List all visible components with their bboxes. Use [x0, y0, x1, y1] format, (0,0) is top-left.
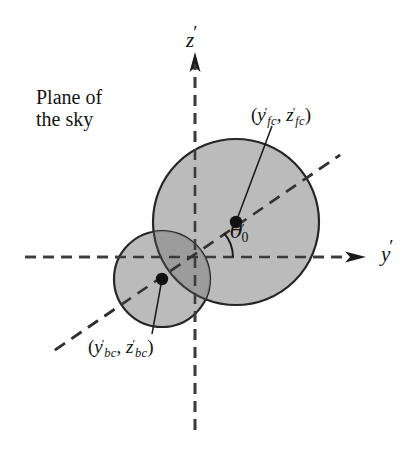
fc-close-paren: ) — [305, 104, 311, 125]
back-component-coordinates-label: (y′bc, z′bc) — [88, 336, 154, 360]
theta-symbol: θ — [230, 219, 243, 243]
plane-of-sky-line1: Plane of — [36, 86, 102, 108]
fc-y-subscript: fc — [267, 114, 276, 128]
bc-z-subscript: bc — [135, 346, 147, 360]
binary-star-geometry-diagram — [0, 0, 416, 464]
figure-root: Plane of the sky z′ y′ (y′fc, z′fc) (y′b… — [0, 0, 416, 464]
y-axis-label: y′ — [381, 236, 393, 266]
bc-separator: , — [117, 336, 127, 357]
back-component-center-dot — [156, 273, 168, 285]
z-axis-prime: ′ — [193, 22, 197, 43]
bc-y-subscript: bc — [104, 346, 116, 360]
fc-z-subscript: fc — [295, 114, 304, 128]
bc-close-paren: ) — [147, 336, 153, 357]
y-axis-prime: ′ — [389, 236, 393, 257]
z-axis-label: z′ — [186, 22, 197, 52]
theta-subscript: 0 — [242, 230, 249, 245]
front-component-coordinates-label: (y′fc, z′fc) — [251, 104, 311, 128]
fc-separator: , — [277, 104, 287, 125]
y-axis-arrowhead — [345, 252, 366, 263]
plane-of-sky-line2: the sky — [36, 108, 102, 130]
plane-of-sky-label: Plane of the sky — [36, 86, 102, 131]
theta-angle-label: θ′0 — [230, 220, 248, 246]
